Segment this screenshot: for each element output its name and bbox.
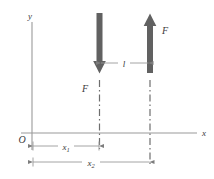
distance-2-dimension: x2 xyxy=(33,158,150,169)
x2-label: x2 xyxy=(86,158,95,169)
distance-1-dimension: x1 xyxy=(33,142,99,153)
x1-label-subscript: 1 xyxy=(66,146,69,153)
x2-label-subscript: 2 xyxy=(91,162,95,169)
separation-dimension: l xyxy=(101,59,149,69)
right-force-label: F xyxy=(161,25,169,36)
y-axis-label: y xyxy=(27,11,32,21)
left-force-arrow xyxy=(93,13,106,74)
force-couple-figure: y x O F F l xyxy=(0,0,214,179)
axes-group: y x O xyxy=(18,11,206,150)
origin-label: O xyxy=(18,134,25,145)
right-force-arrow xyxy=(144,14,157,74)
x-axis-label: x xyxy=(201,128,206,138)
guide-lines-group xyxy=(100,80,151,166)
separation-label: l xyxy=(123,59,126,69)
x1-label: x1 xyxy=(61,142,69,153)
left-force-label: F xyxy=(81,83,89,94)
figure-canvas: y x O F F l xyxy=(0,0,214,179)
